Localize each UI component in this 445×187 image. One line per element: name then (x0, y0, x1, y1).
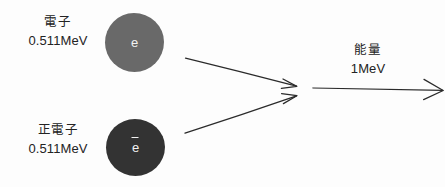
energy-arrow-icon (313, 79, 443, 99)
physics-diagram: 電子 0.511MeV 正電子 0.511MeV e e 能量 1MeV (0, 0, 445, 187)
positron-arrow-icon (185, 94, 297, 134)
electron-arrow-icon (186, 58, 297, 88)
arrow-layer (0, 0, 445, 187)
